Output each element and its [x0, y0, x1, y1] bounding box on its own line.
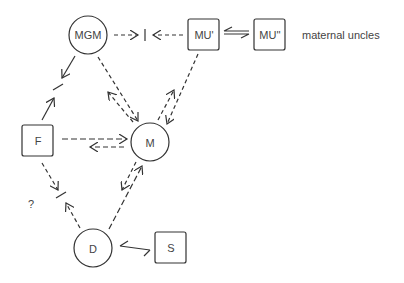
label-s: S — [167, 242, 174, 254]
edge-d-to-m — [109, 166, 142, 229]
label-mgm: MGM — [75, 29, 102, 41]
barrier-f-d — [56, 192, 66, 198]
kinship-diagram — [0, 0, 404, 283]
edge-m-to-mu1 — [158, 90, 174, 120]
edge-f-to-mgm — [42, 98, 54, 120]
label-d: D — [89, 243, 97, 255]
edge-mgm-to-m — [98, 57, 138, 121]
label-m: M — [145, 137, 154, 149]
question-mark-annotation: ? — [28, 198, 34, 210]
edge-d-to-f — [66, 203, 80, 228]
edge-mu1-to-m — [167, 54, 198, 124]
edge-mu1-mu2 — [224, 27, 249, 38]
barrier-mgm-f — [53, 84, 63, 90]
edge-m-to-d — [122, 162, 136, 190]
edge-f-to-d — [42, 163, 58, 190]
label-mu1: MU' — [194, 29, 213, 41]
label-mu2: MU'' — [259, 29, 280, 41]
label-f: F — [35, 135, 42, 147]
maternal-uncles-annotation: maternal uncles — [302, 29, 380, 41]
edge-s-to-d — [120, 241, 150, 256]
edge-mgm-to-f — [62, 56, 75, 78]
